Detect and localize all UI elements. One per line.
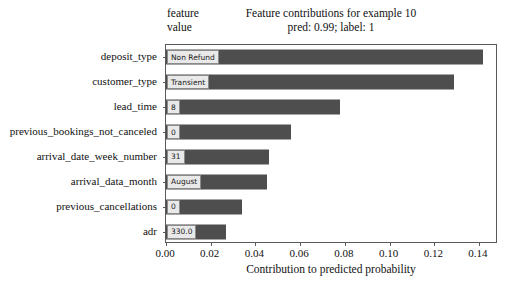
y-tick-label-deposit_type: deposit_type	[0, 50, 161, 62]
x-tick-mark	[390, 242, 391, 246]
y-tick-mark	[163, 132, 167, 133]
y-tick-mark	[163, 82, 167, 83]
bar-lead_time	[166, 100, 340, 115]
chart-subtitle: pred: 0.99; label: 1	[165, 21, 497, 35]
feature-value-box: 8	[167, 100, 180, 114]
x-tick-label: 0.10	[364, 247, 414, 259]
feature-value-box: Transient	[167, 75, 209, 89]
chart-title: Feature contributions for example 10	[165, 7, 497, 21]
bar-row: Transient	[166, 70, 496, 95]
y-tick-mark	[163, 207, 167, 208]
x-tick-mark	[300, 242, 301, 246]
bar-row: 0	[166, 194, 496, 219]
y-tick-mark	[163, 182, 167, 183]
x-tick-label: 0.12	[408, 247, 458, 259]
feature-value-box: Non Refund	[167, 50, 219, 64]
bar-row: Non Refund	[166, 45, 496, 70]
bars-container: Non RefundTransient8031August0330.0	[166, 45, 496, 242]
y-tick-mark	[163, 157, 167, 158]
feature-value-box: 0	[167, 125, 180, 139]
y-tick-mark	[163, 107, 167, 108]
x-tick-mark	[434, 242, 435, 246]
figure-canvas: feature value Feature contributions for …	[0, 0, 516, 288]
x-tick-mark	[255, 242, 256, 246]
bar-row: 8	[166, 95, 496, 120]
x-tick-label: 0.08	[319, 247, 369, 259]
x-tick-mark	[479, 242, 480, 246]
y-tick-label-arrival_date_week_number: arrival_date_week_number	[0, 150, 161, 162]
feature-value-box: 330.0	[167, 225, 196, 239]
y-tick-mark	[163, 57, 167, 58]
bar-row: 31	[166, 145, 496, 170]
bar-customer_type	[166, 75, 454, 90]
x-tick-label: 0.06	[274, 247, 324, 259]
x-tick-mark	[345, 242, 346, 246]
x-tick-label: 0.14	[453, 247, 503, 259]
y-tick-mark	[163, 232, 167, 233]
bar-row: 330.0	[166, 219, 496, 244]
x-tick-mark	[166, 242, 167, 246]
y-tick-label-customer_type: customer_type	[0, 75, 161, 87]
x-tick-label: 0.04	[229, 247, 279, 259]
plot-area: Non RefundTransient8031August0330.0	[165, 44, 497, 243]
feature-value-box: 0	[167, 200, 180, 214]
bar-previous_bookings_not_canceled	[166, 125, 291, 140]
x-tick-label: 0.02	[185, 247, 235, 259]
y-tick-label-arrival_data_month: arrival_data_month	[0, 175, 161, 187]
x-tick-label: 0.00	[140, 247, 190, 259]
y-tick-label-previous_bookings_not_canceled: previous_bookings_not_canceled	[0, 125, 161, 137]
y-tick-label-lead_time: lead_time	[0, 100, 161, 112]
y-tick-label-previous_cancellations: previous_cancellations	[0, 200, 161, 212]
x-axis-title: Contribution to predicted probability	[165, 263, 497, 276]
y-tick-label-adr: adr	[0, 225, 161, 237]
feature-value-box: 31	[167, 150, 185, 164]
bar-row: 0	[166, 120, 496, 145]
chart-title-block: Feature contributions for example 10 pre…	[165, 7, 497, 34]
feature-value-box: August	[167, 175, 201, 189]
x-tick-mark	[211, 242, 212, 246]
bar-row: August	[166, 169, 496, 194]
